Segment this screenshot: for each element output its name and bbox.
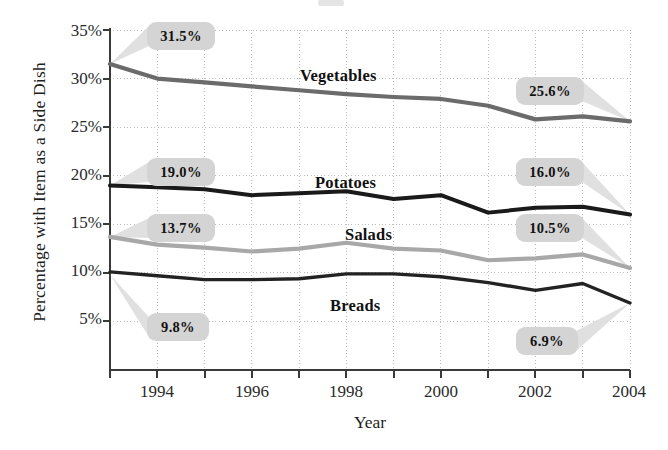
- xtick-label-1994: 1994: [117, 383, 197, 400]
- series-label-breads: Breads: [330, 296, 380, 316]
- callout-vegetables-1993: 31.5%: [147, 22, 215, 50]
- xtick-label-1998: 1998: [306, 383, 386, 400]
- series-label-vegetables: Vegetables: [300, 66, 377, 86]
- series-label-potatoes: Potatoes: [315, 173, 376, 193]
- line-chart: 35% 30% 25% 20% 15% 10% 5% 1994 1996 199…: [0, 0, 668, 450]
- callout-breads-1993: 9.8%: [147, 313, 209, 341]
- callout-potatoes-2004: 16.0%: [516, 158, 584, 186]
- callout-salads-1993: 13.7%: [147, 214, 215, 242]
- callout-breads-2004: 6.9%: [516, 327, 578, 355]
- xtick-label-1996: 1996: [212, 383, 292, 400]
- xtick-label-2004: 2004: [589, 383, 668, 400]
- series-label-salads: Salads: [345, 225, 392, 245]
- x-axis-title: Year: [110, 412, 630, 433]
- callout-potatoes-1993: 19.0%: [147, 158, 215, 186]
- xtick-label-2000: 2000: [401, 383, 481, 400]
- y-axis-title: Percentage with Item as a Side Dish: [26, 0, 52, 392]
- callout-salads-2004: 10.5%: [516, 214, 584, 242]
- xtick-label-2002: 2002: [495, 383, 575, 400]
- callout-vegetables-2004: 25.6%: [516, 77, 584, 105]
